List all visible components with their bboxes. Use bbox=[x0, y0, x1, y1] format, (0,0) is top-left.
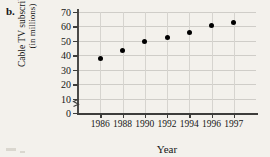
axis-break-icon bbox=[72, 96, 86, 110]
x-axis-tick bbox=[123, 113, 124, 118]
y-axis-tick-label: 20 bbox=[61, 79, 71, 90]
y-axis-tick-label: 30 bbox=[61, 64, 71, 75]
y-axis-tick-label: 70 bbox=[61, 7, 71, 18]
figure-panel: b. Cable TV subscribers (in millions) 01… bbox=[0, 0, 270, 157]
data-point bbox=[165, 35, 170, 40]
x-axis-tick-label: 1996 bbox=[202, 119, 221, 129]
y-axis-tick bbox=[73, 41, 78, 42]
y-axis-tick bbox=[73, 84, 78, 85]
scan-artifact bbox=[20, 151, 25, 153]
gridline-vertical bbox=[145, 12, 146, 113]
y-axis-tick bbox=[73, 55, 78, 56]
x-axis-tick-label: 1997 bbox=[224, 119, 243, 129]
data-point bbox=[142, 39, 147, 44]
x-axis-tick bbox=[234, 113, 235, 118]
data-point bbox=[98, 56, 103, 61]
y-axis-tick bbox=[73, 113, 78, 114]
x-axis-tick bbox=[212, 113, 213, 118]
y-axis-tick bbox=[73, 12, 78, 13]
y-axis-tick bbox=[73, 26, 78, 27]
y-axis-title-line2: (in millions) bbox=[28, 4, 37, 49]
x-axis-tick-label: 1990 bbox=[135, 119, 154, 129]
x-axis-tick bbox=[145, 113, 146, 118]
scan-artifact bbox=[6, 148, 16, 151]
gridline-vertical bbox=[189, 12, 190, 113]
x-axis-tick bbox=[189, 113, 190, 118]
data-point bbox=[231, 20, 236, 25]
plot-area: 010203040506070 198619881990199219941996… bbox=[78, 12, 256, 113]
x-axis-tick bbox=[100, 113, 101, 118]
gridline-vertical bbox=[123, 12, 124, 113]
x-axis-tick-label: 1988 bbox=[113, 119, 132, 129]
y-axis-title: Cable TV subscribers (in millions) bbox=[14, 0, 42, 76]
data-point bbox=[209, 23, 214, 28]
x-axis-tick-label: 1986 bbox=[91, 119, 110, 129]
x-axis-tick-label: 1992 bbox=[158, 119, 177, 129]
x-axis-tick-label: 1994 bbox=[180, 119, 199, 129]
y-axis-tick-label: 60 bbox=[61, 21, 71, 32]
y-axis-tick bbox=[73, 70, 78, 71]
gridline-vertical bbox=[234, 12, 235, 113]
gridline-vertical bbox=[167, 12, 168, 113]
gridline-vertical bbox=[100, 12, 101, 113]
y-axis-tick-label: 10 bbox=[61, 93, 71, 104]
x-axis-tick bbox=[167, 113, 168, 118]
data-point bbox=[187, 30, 192, 35]
data-point bbox=[120, 48, 125, 53]
y-axis-tick-label: 0 bbox=[66, 108, 71, 119]
y-axis-tick-label: 40 bbox=[61, 50, 71, 61]
y-axis-tick-label: 50 bbox=[61, 35, 71, 46]
x-axis-title: Year bbox=[78, 143, 256, 155]
